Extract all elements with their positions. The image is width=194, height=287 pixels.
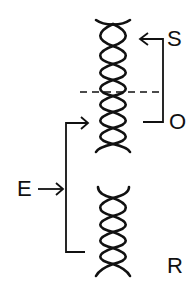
top-helix xyxy=(96,20,130,152)
label-r: R xyxy=(167,255,183,277)
label-o: O xyxy=(169,111,186,133)
label-s: S xyxy=(167,28,182,50)
e-bracket xyxy=(38,117,88,252)
s-o-bracket xyxy=(140,33,163,122)
label-e: E xyxy=(17,178,32,200)
bottom-helix xyxy=(96,187,130,276)
dna-diagram xyxy=(0,0,194,287)
